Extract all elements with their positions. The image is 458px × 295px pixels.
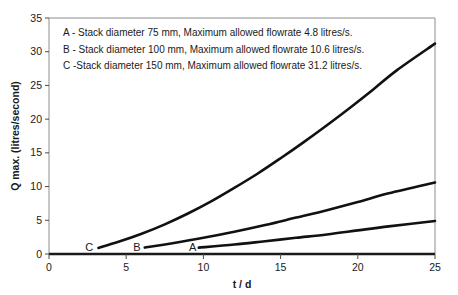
y-axis-title: Q max. (litres/second) [9, 81, 21, 191]
x-axis-ticks: 0510152025 [46, 254, 441, 273]
y-tick-label: 10 [30, 180, 42, 192]
legend-entry: A - Stack diameter 75 mm, Maximum allowe… [63, 27, 353, 38]
x-tick-label: 20 [352, 261, 364, 273]
curve-C [98, 44, 435, 248]
x-tick-label: 15 [275, 261, 287, 273]
y-tick-label: 35 [30, 12, 42, 24]
x-axis-title: t / d [233, 278, 252, 290]
legend-entry: C -Stack diameter 150 mm, Maximum allowe… [63, 60, 362, 71]
data-curves [98, 44, 435, 248]
legend-entry: B - Stack diameter 100 mm, Maximum allow… [63, 44, 364, 55]
curve-label-A: A [189, 241, 197, 253]
x-tick-label: 0 [46, 261, 52, 273]
chart-container: 05101520253035 0510152025 CBA t / d Q ma… [0, 0, 458, 295]
curve-A [199, 221, 435, 248]
x-tick-label: 10 [198, 261, 210, 273]
q-max-vs-t-line-chart: 05101520253035 0510152025 CBA t / d Q ma… [0, 0, 458, 295]
x-tick-label: 25 [429, 261, 441, 273]
y-tick-label: 20 [30, 113, 42, 125]
y-tick-label: 5 [36, 214, 42, 226]
x-tick-label: 5 [123, 261, 129, 273]
chart-legend: A - Stack diameter 75 mm, Maximum allowe… [63, 27, 364, 71]
y-tick-label: 15 [30, 146, 42, 158]
y-tick-label: 25 [30, 79, 42, 91]
y-tick-label: 30 [30, 45, 42, 57]
y-axis-ticks: 05101520253035 [30, 12, 49, 260]
curve-label-B: B [133, 241, 140, 253]
curve-label-C: C [85, 241, 93, 253]
y-tick-label: 0 [36, 248, 42, 260]
